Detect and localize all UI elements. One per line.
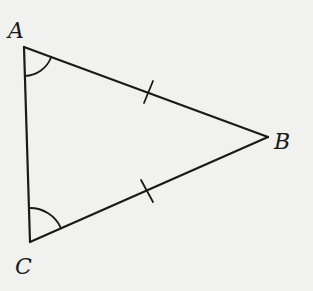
angle-arc-c xyxy=(29,208,61,228)
vertex-label-c: C xyxy=(15,254,32,279)
tick-mark-bc xyxy=(141,180,153,202)
triangle-diagram: A B C xyxy=(0,0,313,291)
side-bc xyxy=(30,137,268,242)
vertex-label-b: B xyxy=(273,129,290,154)
angle-arc-a xyxy=(25,57,51,76)
vertex-label-a: A xyxy=(6,18,24,43)
side-ab xyxy=(24,47,268,137)
